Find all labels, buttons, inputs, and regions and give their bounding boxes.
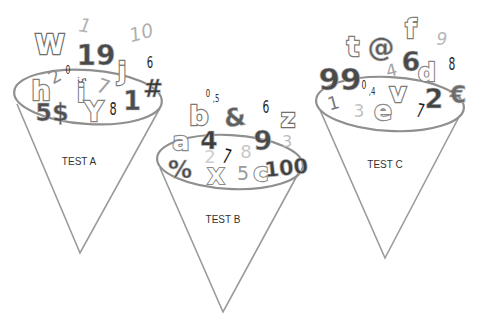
cone-test-b: TEST B 0,5b&6za493278%X5c100 [156, 87, 310, 312]
symbol-glyph: f [405, 14, 417, 44]
cone-test-a: TEST A W11019620.57jhi#18Y5$ [12, 13, 163, 253]
symbol-glyph: j [117, 57, 127, 86]
symbol-glyph: % [168, 156, 192, 184]
symbol-glyph: @ [368, 31, 395, 62]
symbol-glyph: a [173, 127, 190, 156]
symbol-glyph: # [143, 75, 163, 103]
symbol-glyph: 0 [206, 87, 210, 100]
symbol-glyph: X [208, 164, 225, 189]
test-cones-diagram: TEST A W11019620.57jhi#18Y5$ TEST B 0,5b… [0, 0, 477, 328]
symbol-glyph: 8 [109, 99, 116, 120]
scattered-symbols: W11019620.57jhi#18Y5$ [31, 13, 163, 127]
symbol-glyph: v [390, 78, 407, 108]
symbol-glyph: 7 [93, 73, 113, 100]
symbol-glyph: z [281, 104, 296, 133]
cone-label: TEST A [62, 156, 97, 167]
symbol-glyph: 0 [362, 77, 367, 91]
symbol-glyph: 2 [425, 83, 444, 114]
symbol-glyph: & [222, 102, 248, 134]
symbol-glyph: ,5 [213, 92, 220, 105]
symbol-glyph: 9 [254, 125, 273, 156]
symbol-glyph: 0 [66, 62, 71, 76]
symbol-glyph: 5$ [35, 99, 68, 127]
symbol-glyph: 6 [263, 97, 270, 117]
symbol-glyph: 1 [123, 86, 141, 116]
symbol-glyph: 3 [354, 101, 365, 121]
symbol-glyph: 9 [437, 29, 448, 49]
symbol-glyph: 100 [263, 154, 309, 182]
cone-label: TEST C [367, 159, 402, 170]
symbol-glyph: 1 [77, 13, 93, 37]
symbol-glyph: e [374, 96, 392, 126]
symbol-glyph: 5 [237, 162, 249, 184]
symbol-glyph: 3 [282, 132, 292, 151]
cone-label: TEST B [206, 214, 241, 225]
symbol-glyph: W [35, 29, 65, 60]
symbol-glyph: Y [84, 97, 105, 127]
symbol-glyph: 10 [127, 18, 156, 46]
symbol-glyph: 8 [449, 54, 456, 74]
cone-test-c: TEST C f9t@46d8990,4v€13e72 [315, 14, 467, 258]
symbol-glyph: t [347, 32, 359, 62]
symbol-glyph: € [449, 81, 467, 109]
cone-body [320, 110, 460, 258]
symbol-glyph: 19 [77, 39, 116, 72]
symbol-glyph: 99 [318, 61, 361, 97]
symbol-glyph: 6 [147, 53, 153, 72]
scattered-symbols: 0,5b&6za493278%X5c100 [168, 87, 309, 189]
symbol-glyph: 8 [240, 141, 251, 162]
scattered-symbols: f9t@46d8990,4v€13e72 [318, 14, 466, 126]
